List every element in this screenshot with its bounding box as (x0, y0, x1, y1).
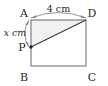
dimension-label-left: x cm (4, 27, 27, 38)
vertex-label-P: P (18, 41, 26, 54)
vertex-label-C: C (88, 71, 96, 84)
vertex-label-D: D (88, 7, 97, 20)
geometry-figure: 4 cm x cm A D P B C (0, 0, 108, 86)
geometry-diagram-svg: 4 cm x cm A D P B C (0, 0, 108, 86)
dimension-label-top: 4 cm (47, 3, 70, 14)
vertex-label-A: A (19, 7, 29, 20)
point-marker-p (29, 45, 32, 48)
dimension-arrowhead-left-top (25, 20, 29, 25)
vertex-label-B: B (20, 71, 28, 84)
